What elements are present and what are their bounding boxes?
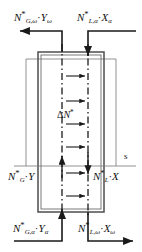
column-vessel-inner-wall: [41, 55, 101, 209]
section-flow-arrows: [62, 152, 88, 178]
label-gas-inlet-bottom: N*G,α·Yα: [13, 221, 48, 236]
label-liquid-outlet-bottom: N*L,ω·Xω: [78, 221, 115, 236]
label-transfer-flux: ΔN*: [57, 110, 74, 120]
label-liquid-inlet-top: N*L,α·Xα: [77, 10, 112, 25]
label-gas-outlet-top: N*G,ω·Yω: [14, 10, 52, 25]
mass-transfer-arrows: [66, 76, 85, 196]
label-gas-section: N*G·Y: [8, 169, 34, 184]
diagram-canvas: N*G,ω·Yω N*L,α·Xα ΔN* N*G·Y N*L·X s N*G,…: [0, 0, 142, 252]
label-section-plane: s: [124, 152, 128, 161]
label-liquid-section: N*L·X: [93, 169, 119, 184]
column-schematic: [0, 0, 142, 252]
